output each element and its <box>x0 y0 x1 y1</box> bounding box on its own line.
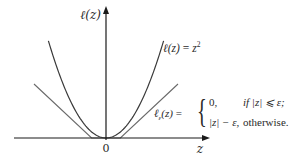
squared-loss-label: ℓ(z) = z2 <box>163 41 200 54</box>
case-2-value: |z| − ε, <box>209 117 239 128</box>
x-axis-label: z <box>196 142 204 156</box>
case-2-condition: otherwise. <box>243 117 289 128</box>
y-axis-label: ℓ(z) <box>80 8 101 22</box>
case-1-condition: if |z| ⩽ ε; <box>243 97 285 108</box>
epsilon-loss-label: ℓε(z) = <box>154 108 182 122</box>
loss-chart: ℓ(z) z 0 <box>0 0 299 158</box>
case-1-value: 0, <box>209 97 217 108</box>
cases-brace: { <box>197 94 207 128</box>
origin-tick-label: 0 <box>103 142 110 155</box>
